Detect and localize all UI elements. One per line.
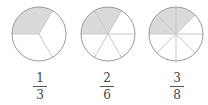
divider-line xyxy=(39,34,53,57)
fraction-bar xyxy=(100,86,114,87)
numerator: 1 xyxy=(30,72,50,85)
fraction-bar xyxy=(170,86,184,87)
denominator: 6 xyxy=(97,89,117,101)
divider-line xyxy=(176,34,195,53)
divider-line xyxy=(95,34,109,57)
fraction-two-sixths: 2 6 xyxy=(97,72,117,101)
circle-three-eighths xyxy=(149,7,203,61)
numerator: 2 xyxy=(97,72,117,85)
denominator: 8 xyxy=(167,89,187,101)
numerator: 3 xyxy=(167,72,187,85)
circle-two-sixths xyxy=(81,7,135,61)
fraction-one-third: 1 3 xyxy=(30,72,50,101)
fraction-bar xyxy=(33,86,47,87)
divider-line xyxy=(108,34,122,57)
fraction-three-eighths: 3 8 xyxy=(167,72,187,101)
denominator: 3 xyxy=(30,89,50,101)
circle-one-third xyxy=(12,7,66,61)
divider-line xyxy=(157,34,176,53)
